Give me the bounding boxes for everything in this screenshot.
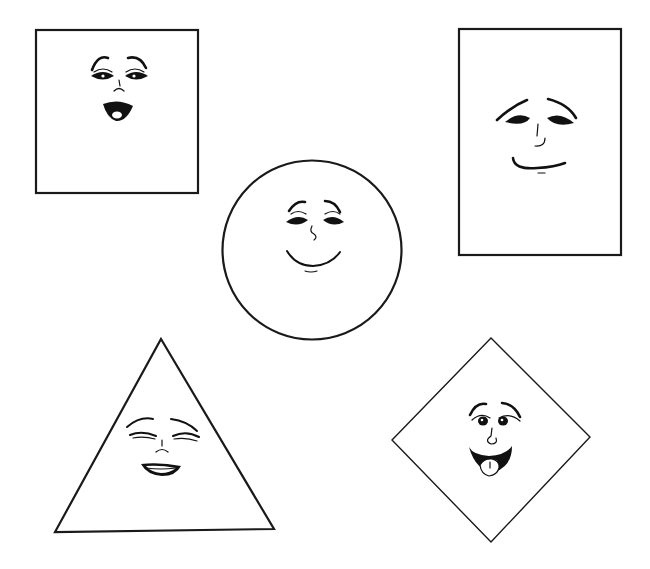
triangle-shape [55, 339, 274, 532]
triangle-outline [55, 339, 274, 532]
rectangle-outline [459, 29, 621, 255]
shapes-canvas [0, 0, 650, 569]
diamond-shape [392, 338, 590, 542]
rectangle-shape [459, 29, 621, 255]
circle-shape [223, 161, 402, 340]
left-eye-icon [478, 417, 488, 426]
right-eye-icon [498, 417, 508, 426]
circle-outline [223, 161, 402, 340]
diamond-outline [392, 338, 590, 542]
square-shape [36, 30, 198, 193]
